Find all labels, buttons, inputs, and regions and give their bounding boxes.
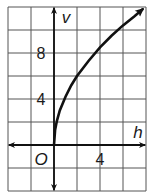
y-axis-label: v — [62, 8, 72, 27]
x-axis-label: h — [133, 123, 142, 142]
y-tick-label-4: 4 — [37, 91, 46, 108]
y-tick-label-8: 8 — [37, 45, 46, 62]
x-tick-label-4: 4 — [96, 151, 105, 168]
graph: vhO484 — [0, 0, 158, 194]
grid-lines — [8, 7, 146, 191]
origin-label: O — [34, 150, 47, 169]
